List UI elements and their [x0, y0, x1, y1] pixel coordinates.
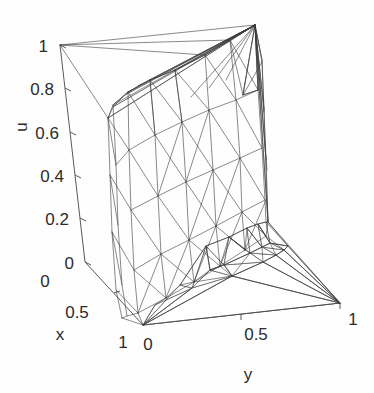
y-tick-label-0: 0 [143, 335, 152, 354]
mesh-edge [209, 110, 240, 158]
mesh-edge [60, 45, 205, 55]
mesh-edge [128, 92, 155, 135]
mesh-edge [129, 150, 158, 196]
mesh-surface-figure: 1 0.8 0.6 0.4 0.2 0 0 0.5 1 0 0.5 1 u x … [0, 0, 374, 393]
x-tick-label-05: 0.5 [65, 303, 89, 322]
y-tick-label-05: 0.5 [244, 325, 268, 344]
x-tick-label-0: 0 [40, 272, 49, 291]
mesh-edge [108, 118, 129, 150]
mesh-edge [138, 313, 143, 325]
x-axis-label: x [56, 325, 65, 344]
mesh-edge [255, 25, 268, 222]
u-axis-label: u [12, 122, 31, 131]
axis-u [60, 45, 91, 265]
u-tick-label-08: 0.8 [30, 80, 54, 99]
mesh-edge [131, 148, 262, 210]
mesh-edge [161, 254, 194, 282]
mesh-edge [236, 100, 262, 148]
u-tick-label-1: 1 [39, 37, 48, 56]
x-axis-tick-labels: 0 0.5 1 [40, 272, 127, 352]
mesh-edge [116, 290, 138, 313]
mesh-edge [155, 135, 186, 182]
mesh-edge [240, 158, 265, 200]
mesh-steep-region [108, 25, 268, 222]
plot-canvas: 1 0.8 0.6 0.4 0.2 0 0 0.5 1 0 0.5 1 u x … [0, 0, 374, 393]
mesh-edge [175, 70, 194, 282]
mesh-edge [186, 110, 209, 182]
mesh-edge [116, 150, 129, 165]
mesh-edge [175, 70, 209, 110]
u-axis-tick-labels: 1 0.8 0.6 0.4 0.2 0 [30, 37, 74, 273]
mesh-edge [186, 182, 216, 226]
u-tick-label-02: 0.2 [45, 210, 69, 229]
y-axis-label: y [244, 365, 253, 384]
mesh-edge [128, 92, 138, 313]
u-tick-04 [75, 175, 81, 178]
u-tick-02 [80, 218, 86, 221]
mesh-surface [108, 25, 340, 325]
x-tick-label-1: 1 [118, 333, 127, 352]
mesh-edge [134, 270, 166, 298]
mesh-edge [110, 175, 131, 210]
mesh-edge [158, 122, 182, 196]
mesh-edge [205, 55, 236, 100]
mesh-edge [216, 158, 240, 226]
mesh-edge [150, 80, 166, 298]
u-tick-label-0: 0 [65, 254, 74, 273]
mesh-edge [131, 210, 161, 254]
u-tick-label-04: 0.4 [40, 167, 64, 186]
u-tick-08 [65, 88, 71, 91]
u-tick-06 [70, 132, 76, 135]
mesh-edge [213, 170, 242, 212]
u-tick-label-06: 0.6 [35, 124, 59, 143]
mesh-edge [158, 196, 189, 240]
y-tick-label-1: 1 [348, 310, 357, 329]
